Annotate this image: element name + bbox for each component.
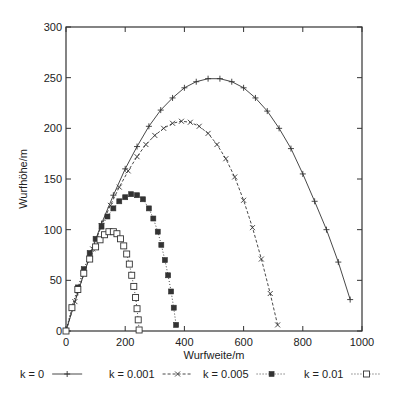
y-tick-label: 300 bbox=[44, 21, 62, 33]
legend-label: k = 0.001 bbox=[109, 368, 155, 380]
series-0 bbox=[63, 76, 353, 334]
legend-label: k = 0.005 bbox=[203, 368, 249, 380]
y-tick-label: 250 bbox=[44, 72, 62, 84]
trajectory-chart: 02004006008001000050100150200250300 Wurf… bbox=[0, 0, 413, 395]
legend-label: k = 0.01 bbox=[304, 368, 343, 380]
legend: k = 0k = 0.001k = 0.005k = 0.01 bbox=[20, 368, 381, 380]
legend-label: k = 0 bbox=[20, 368, 44, 380]
legend-item: k = 0.005 bbox=[203, 368, 287, 380]
x-tick-label: 0 bbox=[63, 336, 69, 348]
x-tick-label: 800 bbox=[294, 336, 312, 348]
legend-item: k = 0 bbox=[20, 368, 82, 380]
plot-area bbox=[66, 27, 362, 331]
x-tick-label: 1000 bbox=[350, 336, 374, 348]
x-tick-label: 200 bbox=[116, 336, 134, 348]
plot-border bbox=[66, 27, 362, 331]
axis-ticks: 02004006008001000050100150200250300 bbox=[44, 21, 375, 348]
x-tick-label: 600 bbox=[234, 336, 252, 348]
x-tick-label: 400 bbox=[175, 336, 193, 348]
legend-item: k = 0.001 bbox=[109, 368, 193, 380]
x-axis-label: Wurfweite/m bbox=[184, 349, 245, 361]
series-layer bbox=[63, 76, 353, 334]
y-tick-label: 150 bbox=[44, 173, 62, 185]
series-2 bbox=[64, 192, 179, 334]
legend-item: k = 0.01 bbox=[304, 368, 381, 380]
series-3 bbox=[63, 229, 142, 334]
y-tick-label: 0 bbox=[56, 325, 62, 337]
y-tick-label: 100 bbox=[44, 224, 62, 236]
y-axis-label: Wurfhöhe/m bbox=[17, 149, 29, 209]
series-1 bbox=[64, 119, 281, 334]
y-tick-label: 50 bbox=[50, 274, 62, 286]
y-tick-label: 200 bbox=[44, 122, 62, 134]
